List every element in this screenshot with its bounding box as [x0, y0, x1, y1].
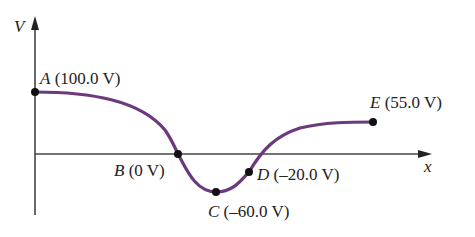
point-e — [369, 118, 377, 126]
label-c: C (–60.0 V) — [208, 202, 289, 221]
x-axis-label: x — [423, 157, 432, 176]
label-d: D (–20.0 V) — [256, 165, 339, 184]
label-b: B (0 V) — [114, 161, 165, 180]
point-b — [174, 150, 182, 158]
y-axis-arrow-icon — [31, 16, 39, 30]
point-c — [212, 188, 220, 196]
label-e: E (55.0 V) — [369, 93, 442, 112]
potential-diagram: V x A (100.0 V) B (0 V) C (–60.0 V) D (–… — [0, 0, 475, 237]
point-a — [31, 88, 39, 96]
point-d — [245, 168, 253, 176]
y-axis-label: V — [14, 17, 27, 36]
label-a: A (100.0 V) — [39, 69, 120, 88]
